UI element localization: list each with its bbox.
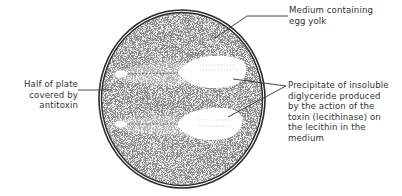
label-line: diglyceride produced: [288, 91, 389, 102]
agar-medium: [95, 8, 270, 193]
label-line: by the action of the: [288, 101, 389, 112]
label-line: antitoxin: [2, 100, 78, 111]
label-medium-egg-yolk: Medium containing egg yolk: [289, 5, 373, 26]
inoculum-spot-upper: [115, 71, 127, 78]
label-line: Half of plate: [2, 79, 78, 90]
label-line: covered by: [2, 90, 78, 101]
label-line: egg yolk: [289, 16, 373, 27]
label-line: medium: [288, 133, 389, 144]
label-line: toxin (lecithinase) on: [288, 112, 389, 123]
label-line: Precipitate of insoluble: [288, 80, 389, 91]
label-line: the lecithin in the: [288, 122, 389, 133]
label-antitoxin-half: Half of plate covered by antitoxin: [2, 79, 78, 111]
label-line: Medium containing: [289, 5, 373, 16]
label-precipitate: Precipitate of insoluble diglyceride pro…: [288, 80, 389, 144]
inoculum-spot-lower: [115, 121, 127, 128]
